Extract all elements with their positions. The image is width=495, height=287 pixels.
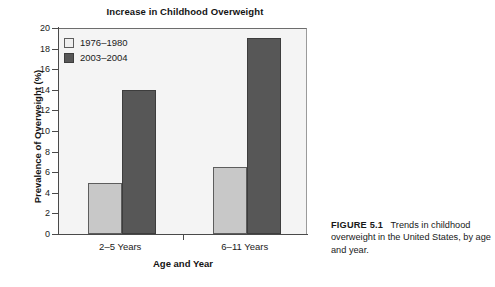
y-axis-tick xyxy=(52,234,58,235)
x-axis-tick xyxy=(183,234,184,240)
figure-caption: FIGURE 5.1 Trends in childhood overweigh… xyxy=(331,219,491,256)
bar-series2-group1 xyxy=(122,90,156,234)
bar-series1-group2 xyxy=(213,167,247,234)
y-axis-title: Prevalence of Overweight (%) xyxy=(32,37,43,237)
x-axis-category-label: 2–5 Years xyxy=(65,241,175,252)
bar-series1-group1 xyxy=(88,183,122,235)
figure-caption-label: FIGURE 5.1 xyxy=(331,220,383,230)
y-axis-tick xyxy=(52,49,58,50)
y-axis-tick xyxy=(52,90,58,91)
figure-chart: Increase in Childhood Overweight 0246810… xyxy=(0,0,320,287)
y-axis-tick xyxy=(52,193,58,194)
y-axis-tick xyxy=(52,213,58,214)
y-axis-tick-label: 20 xyxy=(20,23,50,33)
legend-item: 1976–1980 xyxy=(64,36,164,49)
bar-series2-group2 xyxy=(247,38,281,234)
y-axis-tick xyxy=(52,152,58,153)
legend-swatch-icon xyxy=(64,53,74,63)
y-axis-tick xyxy=(52,172,58,173)
y-axis-tick xyxy=(52,131,58,132)
legend-label: 1976–1980 xyxy=(80,37,128,48)
chart-title: Increase in Childhood Overweight xyxy=(60,6,310,17)
chart-legend: 1976–19802003–2004 xyxy=(64,36,164,66)
x-axis-category-label: 6–11 Years xyxy=(190,241,300,252)
y-axis-tick xyxy=(52,69,58,70)
legend-swatch-icon xyxy=(64,38,74,48)
legend-item: 2003–2004 xyxy=(64,51,164,64)
y-axis-tick xyxy=(52,28,58,29)
y-axis-tick xyxy=(52,110,58,111)
x-axis-title: Age and Year xyxy=(58,258,308,269)
legend-label: 2003–2004 xyxy=(80,52,128,63)
